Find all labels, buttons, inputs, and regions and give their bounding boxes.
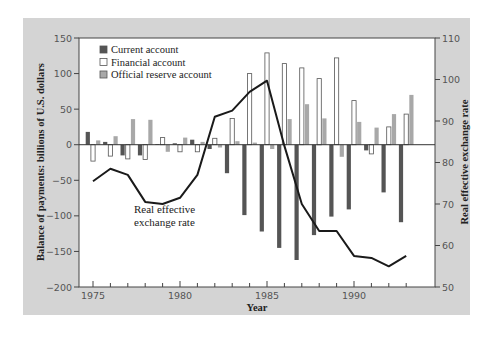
left-axis-tick-label: 50 [60, 104, 72, 115]
bar-financial-account [178, 145, 182, 152]
bar-current-account [277, 145, 281, 248]
bar-financial-account [195, 145, 199, 152]
bar-current-account [121, 145, 125, 156]
bar-financial-account [369, 145, 373, 154]
legend-label: Financial account [111, 57, 185, 68]
left-axis-tick-label: −150 [46, 246, 72, 257]
legend-swatch [100, 71, 107, 78]
annotations: Real effectiveexchange rate [134, 203, 195, 228]
left-axis-tick-label: −50 [52, 175, 72, 186]
bar-official-reserve-account [166, 145, 170, 152]
bar-financial-account [143, 145, 147, 160]
bar-current-account [347, 145, 351, 210]
right-axis-tick-label: 70 [442, 199, 454, 210]
left-axis-title: Balance of payments: billions of U.S. do… [35, 63, 46, 261]
line-annotation: exchange rate [134, 216, 195, 228]
bar-current-account [399, 145, 403, 223]
left-axis-tick-label: −200 [46, 282, 72, 293]
bar-current-account [225, 145, 229, 174]
balance-of-payments-chart: 150100500−50−100−150−2001101009080706050… [0, 0, 504, 347]
right-axis-tick-label: 100 [442, 74, 460, 85]
right-axis-tick-label: 90 [442, 116, 454, 127]
left-axis-tick-label: −100 [46, 210, 72, 221]
bar-current-account [208, 145, 212, 149]
left-axis-tick-label: 100 [54, 68, 72, 79]
bar-financial-account [230, 118, 234, 144]
bar-current-account [190, 140, 194, 145]
bar-official-reserve-account [183, 138, 187, 145]
bar-financial-account [91, 145, 95, 161]
bar-official-reserve-account [114, 136, 118, 145]
bar-official-reserve-account [96, 140, 100, 144]
bar-current-account [382, 145, 386, 193]
bar-financial-account [265, 53, 269, 145]
x-axis-tick-label: 1980 [168, 290, 192, 301]
x-axis-tick-label: 1990 [342, 290, 366, 301]
bar-current-account [86, 132, 90, 145]
x-axis-title: Year [247, 302, 268, 313]
bar-official-reserve-account [305, 104, 309, 145]
bar-financial-account [161, 138, 165, 145]
bar-official-reserve-account [375, 128, 379, 145]
bar-current-account [329, 145, 333, 217]
bar-financial-account [213, 138, 217, 144]
bar-current-account [138, 145, 142, 156]
bar-financial-account [282, 64, 286, 145]
x-axis-tick-label: 1985 [255, 290, 279, 301]
legend-label: Official reserve account [111, 69, 212, 80]
bar-financial-account [108, 145, 112, 156]
bar-financial-account [248, 74, 252, 145]
bar-financial-account [335, 58, 339, 145]
line-annotation: Real effective [134, 203, 195, 215]
bar-official-reserve-account [148, 120, 152, 145]
bar-current-account [260, 145, 264, 232]
bar-financial-account [126, 145, 130, 159]
bar-official-reserve-account [288, 119, 292, 145]
bar-official-reserve-account [392, 114, 396, 145]
right-axis-tick-label: 50 [442, 282, 454, 293]
bar-official-reserve-account [409, 95, 413, 145]
bar-official-reserve-account [270, 145, 274, 149]
bar-official-reserve-account [131, 119, 135, 145]
bar-financial-account [317, 79, 321, 145]
right-axis-tick-label: 80 [442, 157, 454, 168]
right-axis-tick-label: 60 [442, 240, 454, 251]
legend-swatch [100, 59, 107, 66]
legend-swatch [100, 46, 107, 53]
bar-official-reserve-account [340, 145, 344, 157]
bar-official-reserve-account [322, 118, 326, 144]
left-axis-tick-label: 0 [66, 139, 72, 150]
right-axis-tick-label: 110 [442, 33, 460, 44]
bar-current-account [295, 145, 299, 260]
right-axis-title: Real effective exchange rate [459, 99, 470, 224]
bar-financial-account [352, 101, 356, 145]
x-axis-tick-label: 1975 [81, 290, 105, 301]
bar-financial-account [387, 127, 391, 145]
bar-official-reserve-account [357, 122, 361, 145]
bar-financial-account [300, 68, 304, 145]
left-axis-tick-label: 150 [54, 33, 72, 44]
bar-current-account [364, 145, 368, 151]
bar-financial-account [404, 114, 408, 145]
bar-current-account [242, 145, 246, 215]
legend-label: Current account [111, 44, 178, 55]
